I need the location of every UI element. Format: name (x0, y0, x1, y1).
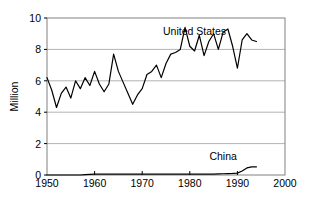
series-labels-group: United StatesChina (163, 25, 237, 162)
x-tick-label: 1960 (83, 177, 107, 189)
x-tick-label: 1980 (178, 177, 202, 189)
x-tick-label: 2000 (273, 177, 297, 189)
y-tick-label: 4 (35, 106, 41, 118)
y-tick-label: 2 (35, 138, 41, 150)
series-line-united-states (47, 27, 256, 107)
y-axis-tick-labels: 0246810 (29, 12, 41, 181)
y-tick-label: 0 (35, 169, 41, 181)
chart-page: 195019601970198019902000 0246810 United … (0, 0, 320, 204)
plot-frame (47, 18, 285, 175)
x-axis-tick-labels: 195019601970198019902000 (35, 177, 297, 189)
y-tick-label: 8 (35, 43, 41, 55)
y-tick-label: 10 (29, 12, 41, 24)
series-label-united-states: United States (163, 25, 226, 37)
series-label-china: China (209, 150, 237, 162)
y-axis-title: Million (8, 81, 20, 111)
x-tick-label: 1990 (226, 177, 250, 189)
y-tick-label: 6 (35, 75, 41, 87)
line-chart: 195019601970198019902000 0246810 United … (0, 0, 320, 204)
series-line-china (47, 167, 256, 175)
x-tick-label: 1970 (131, 177, 155, 189)
plot-border (47, 18, 285, 175)
